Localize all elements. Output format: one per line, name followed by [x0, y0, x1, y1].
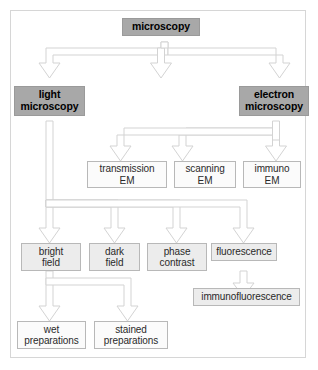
node-light-microscopy-line-1: microscopy: [21, 101, 79, 113]
node-fluorescence[interactable]: fluorescence: [211, 243, 277, 261]
node-stained-preparations-line-0: stained: [115, 324, 147, 335]
node-phase-contrast-line-0: phase: [164, 246, 191, 257]
node-dark-field-line-1: field: [106, 257, 124, 268]
edge-microscopy-to-branch: [39, 42, 290, 78]
node-transmission-em-line-0: transmission: [100, 163, 155, 174]
node-scanning-em-line-1: EM: [198, 175, 213, 186]
node-fluorescence-line-0: fluorescence: [216, 246, 272, 257]
node-immunofluorescence-line-0: immunofluorescence: [201, 291, 291, 302]
node-wet-preparations-line-0: wet: [44, 324, 59, 335]
node-immuno-em-line-1: EM: [265, 175, 280, 186]
edge-electron-to-em-types: [110, 121, 287, 161]
node-transmission-em[interactable]: transmission EM: [87, 161, 167, 188]
node-scanning-em[interactable]: scanning EM: [174, 161, 236, 188]
node-bright-field[interactable]: bright field: [21, 243, 81, 271]
node-stained-preparations[interactable]: stained preparations: [94, 321, 168, 349]
node-dark-field[interactable]: dark field: [89, 243, 140, 271]
node-light-microscopy[interactable]: light microscopy: [14, 86, 85, 116]
node-microscopy-line-0: microscopy: [132, 21, 190, 33]
node-electron-microscopy[interactable]: electron microscopy: [239, 86, 309, 116]
node-immunofluorescence[interactable]: immunofluorescence: [193, 288, 300, 306]
node-bright-field-line-1: field: [42, 257, 60, 268]
node-microscopy[interactable]: microscopy: [122, 18, 200, 36]
node-phase-contrast-line-1: contrast: [160, 257, 195, 268]
node-wet-preparations[interactable]: wet preparations: [17, 321, 86, 349]
node-scanning-em-line-0: scanning: [185, 163, 224, 174]
node-immuno-em[interactable]: immuno EM: [243, 161, 301, 188]
node-transmission-em-line-1: EM: [120, 175, 135, 186]
node-stained-preparations-line-1: preparations: [104, 335, 158, 346]
node-wet-preparations-line-1: preparations: [24, 335, 78, 346]
node-immuno-em-line-0: immuno: [255, 163, 290, 174]
diagram-page: .conn { fill:#ffffff; stroke:#d3d3d3; st…: [0, 0, 318, 370]
edge-bright-field-to-preparations: [39, 271, 138, 321]
node-bright-field-line-0: bright: [39, 246, 63, 257]
node-dark-field-line-0: dark: [105, 246, 124, 257]
node-phase-contrast[interactable]: phase contrast: [147, 243, 207, 271]
node-electron-microscopy-line-1: microscopy: [245, 101, 303, 113]
